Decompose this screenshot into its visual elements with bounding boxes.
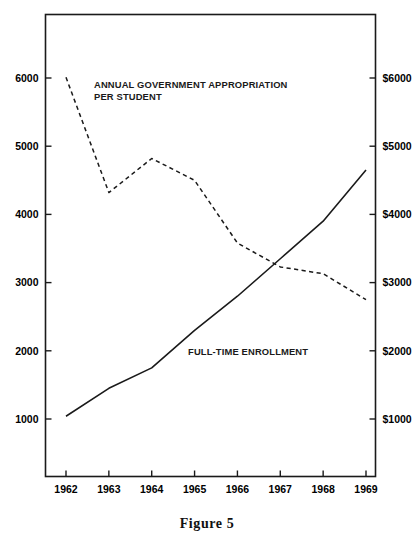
x-axis-tick-label: 1966 — [226, 483, 250, 495]
enrollment-label: FULL-TIME ENROLLMENT — [188, 346, 308, 357]
right-axis-tick-label: $2000 — [383, 345, 412, 357]
left-axis-tick-label: 1000 — [15, 413, 39, 425]
right-axis-tick-label: $6000 — [383, 72, 412, 84]
right-axis-tick-label: $1000 — [383, 413, 412, 425]
right-axis-tick-label: $5000 — [383, 140, 412, 152]
x-axis-tick-label: 1969 — [354, 483, 378, 495]
left-axis-tick-label: 5000 — [15, 140, 39, 152]
right-axis-tick-label: $4000 — [383, 208, 412, 220]
x-axis-tick-label: 1968 — [311, 483, 335, 495]
left-axis-tick-label: 6000 — [15, 72, 39, 84]
x-axis-tick-label: 1965 — [183, 483, 207, 495]
x-axis-tick-label: 1962 — [54, 483, 78, 495]
x-axis-tick-label: 1963 — [97, 483, 121, 495]
left-axis-tick-label: 3000 — [15, 276, 39, 288]
x-axis-tick-label: 1964 — [140, 483, 164, 495]
left-axis-tick-label: 4000 — [15, 208, 39, 220]
x-axis-tick-label: 1967 — [269, 483, 293, 495]
right-axis-tick-label: $3000 — [383, 276, 412, 288]
appropriation-label: ANNUAL GOVERNMENT APPROPRIATION — [94, 79, 288, 90]
left-axis-tick-label: 2000 — [15, 345, 39, 357]
figure-container: 100020003000400050006000 $1000$2000$3000… — [0, 0, 414, 538]
figure-caption: Figure 5 — [0, 516, 414, 532]
appropriation-label: PER STUDENT — [94, 91, 162, 102]
line-chart: 100020003000400050006000 $1000$2000$3000… — [0, 0, 414, 538]
